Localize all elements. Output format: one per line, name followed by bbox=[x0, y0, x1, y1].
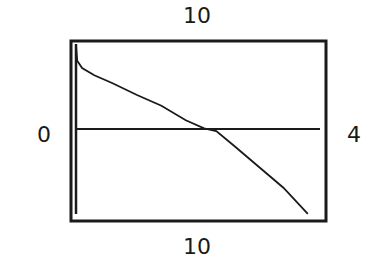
plot-frame bbox=[71, 41, 326, 221]
